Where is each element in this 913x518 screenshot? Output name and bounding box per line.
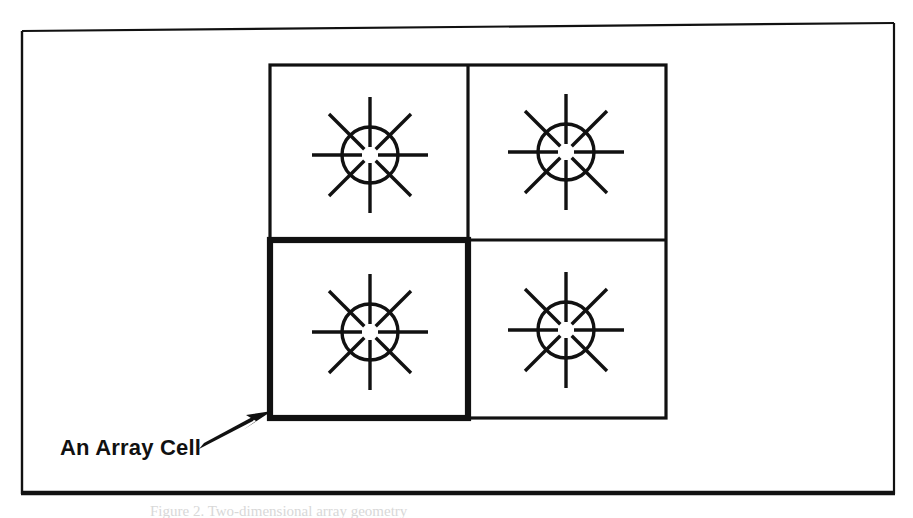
clipped-caption-region: Figure 2. Two-dimensional array geometry	[150, 503, 408, 518]
figure-root: Figure 2. Two-dimensional array geometry	[0, 0, 913, 518]
figure-canvas: Figure 2. Two-dimensional array geometry	[0, 0, 913, 518]
clipped-figure-caption-text: Figure 2. Two-dimensional array geometry	[150, 503, 408, 518]
array-cell-label: An Array Cell	[60, 435, 201, 460]
